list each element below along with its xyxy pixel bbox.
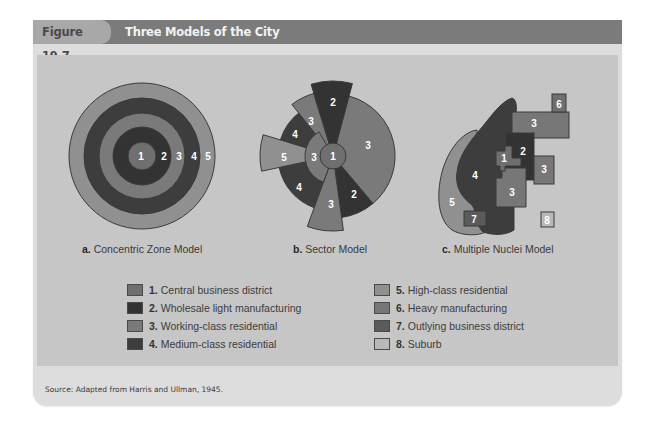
city-models-diagram: 1 2 3 4 5 2 3 3 1 3 2 3 4 5 4 (0, 0, 650, 429)
swatch-1 (127, 284, 143, 296)
legend-item-suburb: 8.Suburb (374, 337, 442, 351)
legend-item-medium-class: 4.Medium-class residential (127, 337, 276, 351)
source-note: Source: Adapted from Harris and Ullman, … (45, 385, 223, 394)
svg-text:4: 4 (296, 182, 302, 193)
swatch-6 (374, 302, 390, 314)
legend-item-cbd: 1.Central business district (127, 283, 272, 297)
caption-multiple-nuclei: c. Multiple Nuclei Model (442, 243, 553, 255)
svg-text:4: 4 (191, 151, 197, 162)
svg-text:1: 1 (138, 151, 144, 162)
svg-text:3: 3 (311, 152, 317, 163)
swatch-8 (374, 338, 390, 350)
svg-text:3: 3 (176, 151, 182, 162)
svg-text:3: 3 (531, 118, 537, 129)
svg-text:5: 5 (281, 152, 287, 163)
svg-text:3: 3 (541, 164, 547, 175)
caption-sector: b. Sector Model (293, 243, 367, 255)
swatch-4 (127, 338, 143, 350)
swatch-3 (127, 320, 143, 332)
svg-text:4: 4 (292, 129, 298, 140)
swatch-2 (127, 302, 143, 314)
svg-text:3: 3 (509, 187, 515, 198)
svg-text:5: 5 (449, 197, 455, 208)
svg-text:3: 3 (308, 116, 314, 127)
svg-text:8: 8 (544, 215, 550, 226)
svg-text:2: 2 (351, 189, 357, 200)
legend-item-outlying-business: 7.Outlying business district (374, 319, 524, 333)
legend-item-wholesale: 2.Wholesale light manufacturing (127, 301, 301, 315)
swatch-7 (374, 320, 390, 332)
svg-text:1: 1 (330, 151, 336, 162)
svg-text:2: 2 (330, 97, 336, 108)
swatch-5 (374, 284, 390, 296)
svg-text:3: 3 (328, 199, 334, 210)
svg-text:5: 5 (205, 151, 211, 162)
caption-concentric: a. Concentric Zone Model (82, 243, 202, 255)
svg-text:1: 1 (501, 153, 507, 164)
svg-text:7: 7 (471, 214, 477, 225)
legend-item-high-class: 5.High-class residential (374, 283, 508, 297)
legend-item-working-class: 3.Working-class residential (127, 319, 277, 333)
svg-text:3: 3 (365, 140, 371, 151)
svg-text:2: 2 (520, 146, 526, 157)
svg-text:4: 4 (472, 170, 478, 181)
svg-text:2: 2 (161, 151, 167, 162)
legend-item-heavy-manufacturing: 6.Heavy manufacturing (374, 301, 507, 315)
svg-text:6: 6 (556, 99, 562, 110)
